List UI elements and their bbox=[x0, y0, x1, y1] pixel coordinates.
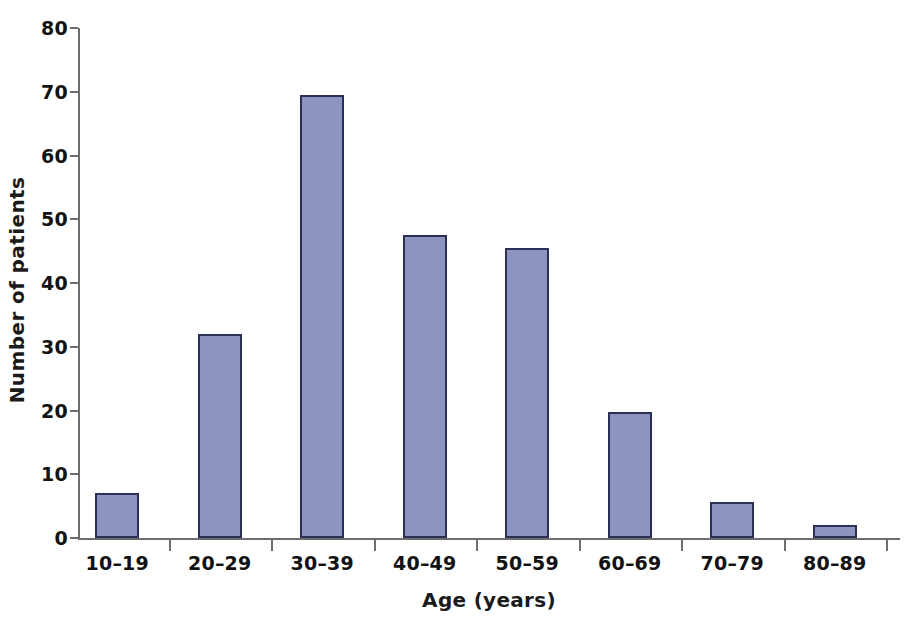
x-tick-mark bbox=[886, 540, 888, 551]
plot-area bbox=[80, 28, 900, 538]
x-tick-label: 70–79 bbox=[701, 552, 764, 574]
y-tick-label: 50 bbox=[18, 208, 68, 230]
x-tick-mark bbox=[374, 540, 376, 551]
y-tick-mark bbox=[70, 155, 78, 157]
x-tick-mark bbox=[681, 540, 683, 551]
bar bbox=[505, 248, 549, 538]
x-tick-label: 50–59 bbox=[496, 552, 559, 574]
bar-chart: Number of patients 01020304050607080 10–… bbox=[0, 0, 908, 633]
y-tick-label: 40 bbox=[18, 272, 68, 294]
x-tick-label: 10–19 bbox=[86, 552, 149, 574]
y-tick-label: 30 bbox=[18, 336, 68, 358]
y-tick-mark bbox=[70, 282, 78, 284]
y-tick-mark bbox=[70, 346, 78, 348]
y-tick-label: 20 bbox=[18, 400, 68, 422]
y-tick-label: 10 bbox=[18, 463, 68, 485]
bar bbox=[710, 502, 754, 538]
y-axis-tick-labels: 01020304050607080 bbox=[18, 0, 68, 633]
y-tick-label: 60 bbox=[18, 145, 68, 167]
y-tick-mark bbox=[70, 27, 78, 29]
x-tick-mark bbox=[271, 540, 273, 551]
y-tick-label: 0 bbox=[18, 527, 68, 549]
bar bbox=[95, 493, 139, 538]
x-tick-mark bbox=[784, 540, 786, 551]
y-tick-mark bbox=[70, 410, 78, 412]
x-tick-mark bbox=[476, 540, 478, 551]
x-tick-mark bbox=[579, 540, 581, 551]
x-axis-title: Age (years) bbox=[78, 588, 900, 612]
x-tick-label: 40–49 bbox=[393, 552, 456, 574]
y-tick-mark bbox=[70, 473, 78, 475]
x-tick-label: 30–39 bbox=[291, 552, 354, 574]
bar bbox=[608, 412, 652, 538]
y-tick-label: 70 bbox=[18, 81, 68, 103]
bar bbox=[300, 95, 344, 538]
bar bbox=[403, 235, 447, 538]
bar bbox=[198, 334, 242, 538]
x-tick-label: 80–89 bbox=[803, 552, 866, 574]
y-tick-label: 80 bbox=[18, 17, 68, 39]
y-tick-mark bbox=[70, 91, 78, 93]
x-axis-line bbox=[78, 538, 900, 540]
x-tick-label: 20–29 bbox=[188, 552, 251, 574]
y-tick-mark bbox=[70, 537, 78, 539]
x-tick-label: 60–69 bbox=[598, 552, 661, 574]
x-tick-mark bbox=[169, 540, 171, 551]
y-tick-mark bbox=[70, 218, 78, 220]
bar bbox=[813, 525, 857, 538]
